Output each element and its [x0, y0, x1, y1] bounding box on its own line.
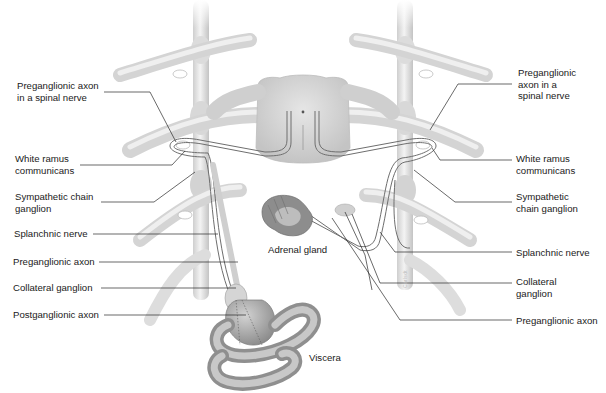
- label-line: Preganglionic axon: [17, 80, 99, 92]
- label-line: in a spinal nerve: [17, 92, 99, 104]
- label-adrenal-gland: Adrenal gland: [268, 244, 327, 256]
- label-left-preganglionic-axon: Preganglionic axon: [13, 256, 95, 268]
- label-line: Collateral: [516, 276, 557, 288]
- label-right-splanchnic-nerve: Splanchnic nerve: [516, 247, 590, 259]
- artist-signature: Carlsdt: [402, 270, 408, 288]
- label-line: spinal nerve: [518, 90, 576, 102]
- label-left-white-ramus: White ramus communicans: [15, 153, 74, 176]
- label-line: communicans: [516, 165, 575, 177]
- label-line: ganglion: [516, 288, 557, 300]
- label-right-sympathetic-chain-ganglion: Sympathetic chain ganglion: [516, 191, 578, 214]
- label-right-preganglionic-axon: Preganglionic axon: [516, 315, 598, 327]
- label-left-splanchnic-nerve: Splanchnic nerve: [14, 228, 88, 240]
- label-line: communicans: [15, 165, 74, 177]
- label-line: Sympathetic: [516, 191, 578, 203]
- label-viscera: Viscera: [309, 352, 341, 364]
- label-line: axon in a: [518, 79, 576, 91]
- viscera: [214, 300, 314, 384]
- label-left-postganglionic-axon: Postganglionic axon: [13, 309, 99, 321]
- label-line: Preganglionic: [518, 67, 576, 79]
- label-line: Sympathetic chain: [15, 191, 93, 203]
- label-left-sympathetic-chain-ganglion: Sympathetic chain ganglion: [15, 191, 93, 214]
- label-line: White ramus: [15, 153, 74, 165]
- label-line: White ramus: [516, 153, 575, 165]
- diagram-canvas: Preganglionic axon in a spinal nerve Whi…: [0, 0, 606, 393]
- label-left-collateral-ganglion: Collateral ganglion: [13, 282, 92, 294]
- adrenal-gland: [262, 195, 312, 236]
- label-right-preganglionic-spinal-nerve: Preganglionic axon in a spinal nerve: [518, 67, 576, 102]
- right-spinal-nerves: [344, 40, 486, 310]
- label-right-collateral-ganglion: Collateral ganglion: [516, 276, 557, 299]
- label-line: chain ganglion: [516, 203, 578, 215]
- label-right-white-ramus: White ramus communicans: [516, 153, 575, 176]
- label-left-preganglionic-spinal-nerve: Preganglionic axon in a spinal nerve: [17, 80, 99, 103]
- label-line: ganglion: [15, 203, 93, 215]
